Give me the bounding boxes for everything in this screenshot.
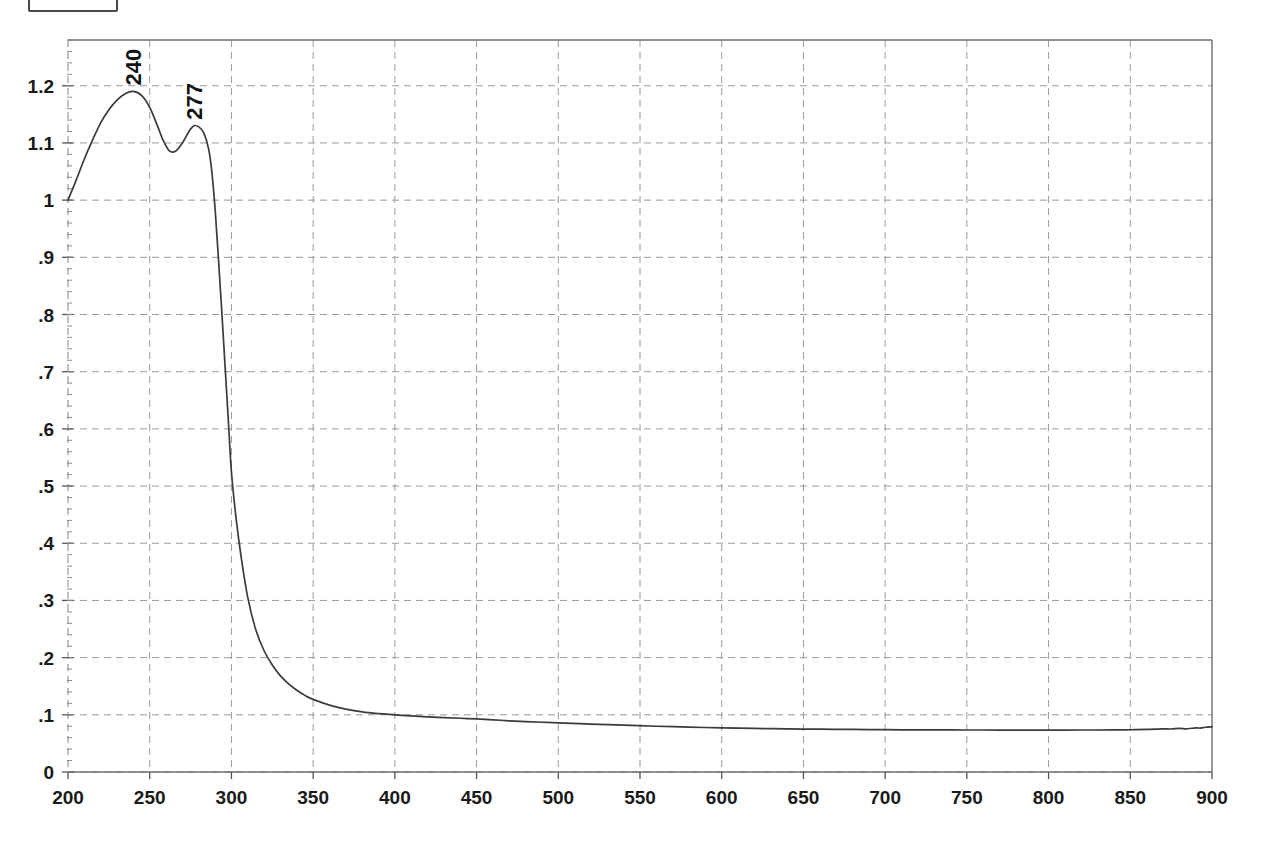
x-tick-label: 750 [951,787,983,808]
x-tick-label: 400 [379,787,411,808]
y-tick-label: 1.2 [28,76,54,97]
y-tick-label: 1.1 [28,133,55,154]
y-tick-label: .3 [38,590,54,611]
x-tick-label: 300 [216,787,248,808]
y-tick-label: 1 [43,190,54,211]
y-tick-label: .6 [38,419,54,440]
gridlines [68,40,1212,772]
peak-annotation-277: 277 [182,83,207,120]
x-tick-label: 700 [869,787,901,808]
chart-canvas: 0.1.2.3.4.5.6.7.8.911.11.2 2002503003504… [0,0,1262,843]
y-tick-label: .4 [38,533,54,554]
x-tick-label: 900 [1196,787,1228,808]
x-tick-label: 600 [706,787,738,808]
x-tick-label: 350 [297,787,329,808]
y-tick-label: .9 [38,247,54,268]
y-axis-tick-labels: 0.1.2.3.4.5.6.7.8.911.11.2 [28,76,55,783]
x-tick-label: 850 [1114,787,1146,808]
x-axis-tick-labels: 2002503003504004505005506006507007508008… [52,787,1228,808]
y-tick-label: .5 [38,476,54,497]
peak-annotations: 240277 [121,49,206,120]
y-tick-label: .8 [38,305,54,326]
x-tick-label: 250 [134,787,166,808]
x-tick-label: 650 [788,787,820,808]
axis-ticks [62,40,1212,779]
y-tick-label: 0 [43,762,54,783]
y-tick-label: .1 [38,705,54,726]
x-tick-label: 550 [624,787,656,808]
spectrum-chart: 0.1.2.3.4.5.6.7.8.911.11.2 2002503003504… [0,0,1262,843]
x-tick-label: 800 [1033,787,1065,808]
y-tick-label: .7 [38,362,54,383]
x-tick-label: 450 [461,787,493,808]
peak-annotation-240: 240 [121,49,146,86]
x-tick-label: 500 [542,787,574,808]
x-tick-label: 200 [52,787,84,808]
y-tick-label: .2 [38,648,54,669]
